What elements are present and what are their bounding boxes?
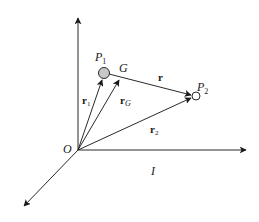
label-r2: r2	[150, 123, 159, 137]
label-p1-sub: 1	[102, 57, 106, 66]
label-p2-sub: 2	[204, 87, 208, 96]
label-r1-sub: 1	[87, 100, 91, 108]
label-p2: P2	[196, 80, 208, 96]
label-rG-sub: G	[125, 99, 131, 108]
label-rG: rG	[120, 94, 131, 108]
label-p1: P1	[94, 50, 106, 66]
label-origin: O	[63, 142, 72, 156]
label-g: G	[119, 61, 128, 75]
particle-p1	[99, 68, 110, 79]
label-r2-sub: 2	[155, 129, 159, 137]
vector-r	[109, 74, 191, 95]
label-r: r	[158, 71, 163, 83]
vector-diagram: O I P1 G P2 r r1 rG r2	[0, 0, 259, 222]
vector-r2	[78, 98, 191, 150]
label-r1: r1	[82, 94, 91, 108]
label-frame: I	[150, 164, 156, 178]
diagonal-axis	[24, 150, 78, 206]
